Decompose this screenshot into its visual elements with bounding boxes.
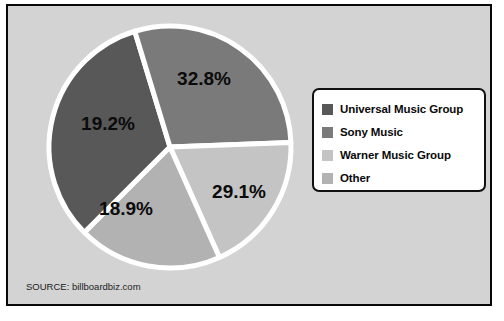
pie-slice-group bbox=[49, 26, 291, 268]
source-note: SOURCE: billboardbiz.com bbox=[26, 281, 141, 292]
legend-item-sony-music[interactable]: Sony Music bbox=[322, 121, 484, 143]
legend-swatch-icon-warner-music-group bbox=[322, 150, 333, 161]
legend-item-other[interactable]: Other bbox=[322, 167, 484, 189]
legend-item-universal-music-group[interactable]: Universal Music Group bbox=[322, 98, 484, 120]
chart-figure: 32.8%29.1%18.9%19.2% Universal Music Gro… bbox=[6, 4, 492, 306]
legend-swatch-icon-universal-music-group bbox=[322, 104, 333, 115]
pie-slice-value-label: 18.9% bbox=[99, 198, 153, 219]
pie-slice-value-label: 32.8% bbox=[177, 68, 231, 89]
legend-label-universal-music-group: Universal Music Group bbox=[340, 103, 463, 115]
legend-swatch-icon-other bbox=[322, 173, 333, 184]
legend-item-warner-music-group[interactable]: Warner Music Group bbox=[322, 144, 484, 166]
pie-chart-svg: 32.8%29.1%18.9%19.2% bbox=[8, 6, 308, 282]
legend-label-warner-music-group: Warner Music Group bbox=[340, 149, 451, 161]
legend-label-other: Other bbox=[340, 172, 370, 184]
pie-slice-value-label: 29.1% bbox=[212, 181, 266, 202]
chart-legend: Universal Music Group Sony Music Warner … bbox=[312, 88, 486, 192]
pie-slice-value-label: 19.2% bbox=[81, 113, 135, 134]
pie-chart-area: 32.8%29.1%18.9%19.2% bbox=[8, 6, 308, 282]
legend-swatch-icon-sony-music bbox=[322, 127, 333, 138]
legend-label-sony-music: Sony Music bbox=[340, 126, 403, 138]
